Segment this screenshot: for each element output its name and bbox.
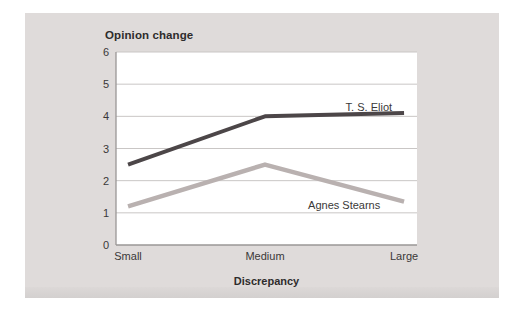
y-tick-label-2: 2 bbox=[103, 175, 109, 187]
x-tick-label-small: Small bbox=[114, 250, 142, 262]
chart-card: Opinion change 0123456SmallMediumLargeT.… bbox=[25, 13, 499, 298]
y-tick-label-6: 6 bbox=[103, 46, 109, 58]
series-label-agnes-stearns: Agnes Stearns bbox=[308, 199, 381, 211]
x-axis-title: Discrepancy bbox=[116, 275, 417, 287]
x-tick-label-medium: Medium bbox=[245, 250, 284, 262]
x-tick-label-large: Large bbox=[390, 250, 418, 262]
y-tick-label-0: 0 bbox=[103, 239, 109, 251]
y-tick-label-4: 4 bbox=[103, 110, 109, 122]
card-bottom-strip bbox=[25, 287, 499, 298]
y-tick-label-3: 3 bbox=[103, 143, 109, 155]
page: Opinion change 0123456SmallMediumLargeT.… bbox=[0, 0, 525, 315]
y-tick-label-1: 1 bbox=[103, 207, 109, 219]
y-tick-label-5: 5 bbox=[103, 78, 109, 90]
series-label-t-s-eliot: T. S. Eliot bbox=[346, 101, 392, 113]
chart-svg: 0123456SmallMediumLargeT. S. EliotAgnes … bbox=[25, 13, 499, 298]
